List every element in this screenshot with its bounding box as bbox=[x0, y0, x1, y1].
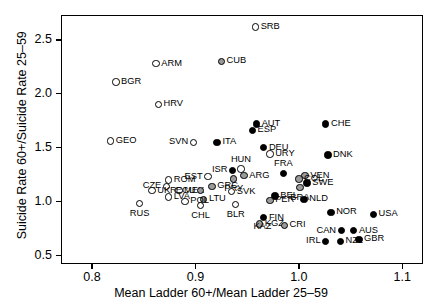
data-point-label: ISR bbox=[212, 166, 228, 175]
x-axis-tick-mark bbox=[91, 264, 93, 269]
data-point-marker[interactable] bbox=[155, 101, 162, 108]
x-axis-tick-label: 0.9 bbox=[175, 271, 215, 284]
data-point-label: BLR bbox=[227, 210, 245, 219]
data-point-label: CRI bbox=[290, 221, 306, 230]
x-axis-tick-label: 1.1 bbox=[382, 271, 422, 284]
data-point-marker[interactable] bbox=[295, 175, 302, 182]
data-point-label: ROM bbox=[174, 175, 196, 184]
data-point-marker[interactable] bbox=[190, 139, 197, 146]
data-point-marker[interactable] bbox=[303, 179, 310, 186]
y-axis-tick-mark bbox=[56, 201, 61, 203]
data-point-label: GBR bbox=[364, 235, 384, 244]
data-point-label: CHL bbox=[191, 211, 210, 220]
x-axis-tick-mark bbox=[298, 264, 300, 269]
data-point-label: SWE bbox=[312, 178, 333, 187]
data-point-marker[interactable] bbox=[112, 78, 119, 85]
data-point-marker[interactable] bbox=[152, 60, 159, 67]
y-axis-tick-mark bbox=[56, 39, 61, 41]
data-point-marker[interactable] bbox=[240, 172, 247, 179]
y-axis-title: Suicide Rate 60+/Suicide Rate 25–59 bbox=[16, 10, 29, 260]
x-axis-tick-label: 1.0 bbox=[279, 271, 319, 284]
x-axis-tick-label: 0.8 bbox=[72, 271, 112, 284]
data-point-label: SVK bbox=[237, 187, 256, 196]
data-point-label: RUS bbox=[130, 209, 150, 218]
data-point-label: GEO bbox=[116, 136, 137, 145]
y-axis-tick-mark bbox=[56, 147, 61, 149]
y-axis-tick-mark bbox=[56, 255, 61, 257]
data-point-label: ITA bbox=[222, 138, 236, 147]
data-point-marker[interactable] bbox=[355, 236, 362, 243]
data-point-label: CUB bbox=[227, 57, 247, 66]
data-point-marker[interactable] bbox=[327, 209, 334, 216]
x-axis-tick-mark bbox=[402, 264, 404, 269]
data-point-marker[interactable] bbox=[218, 58, 225, 65]
data-point-marker[interactable] bbox=[322, 120, 329, 127]
data-point-marker[interactable] bbox=[204, 173, 211, 180]
x-axis-tick-mark bbox=[195, 264, 197, 269]
data-point-marker[interactable] bbox=[266, 150, 273, 157]
data-point-label: ARM bbox=[161, 59, 182, 68]
data-point-label: CAN bbox=[316, 226, 336, 235]
data-point-marker[interactable] bbox=[249, 127, 256, 134]
data-point-marker[interactable] bbox=[165, 193, 172, 200]
data-point-label: NLD bbox=[309, 195, 328, 204]
data-point-label: USA bbox=[379, 210, 398, 219]
data-point-label: KAZ bbox=[253, 223, 271, 232]
data-point-label: ESP bbox=[258, 126, 277, 135]
data-point-marker[interactable] bbox=[252, 23, 259, 30]
data-point-marker[interactable] bbox=[300, 196, 307, 203]
data-point-label: IRL bbox=[306, 237, 320, 246]
data-point-label: FRA bbox=[274, 159, 293, 168]
data-point-marker[interactable] bbox=[370, 211, 377, 218]
data-point-marker[interactable] bbox=[281, 222, 288, 229]
data-point-marker[interactable] bbox=[266, 197, 273, 204]
data-point-marker[interactable] bbox=[324, 151, 331, 158]
data-point-label: CHE bbox=[331, 119, 351, 128]
data-point-marker[interactable] bbox=[208, 183, 215, 190]
data-point-marker[interactable] bbox=[148, 187, 155, 194]
data-point-label: SRB bbox=[261, 22, 280, 31]
x-axis-title: Mean Ladder 60+/Mean Ladder 25–59 bbox=[0, 287, 442, 300]
data-point-marker[interactable] bbox=[213, 139, 220, 146]
data-point-label: ARG bbox=[249, 171, 269, 180]
data-point-label: HRV bbox=[163, 100, 182, 109]
data-point-label: LTU bbox=[209, 195, 226, 204]
data-point-marker[interactable] bbox=[181, 198, 188, 205]
y-axis-tick-mark bbox=[56, 93, 61, 95]
data-point-marker[interactable] bbox=[337, 238, 344, 245]
data-point-label: PER bbox=[275, 196, 294, 205]
data-point-label: BGR bbox=[121, 77, 141, 86]
data-point-label: NOR bbox=[336, 208, 357, 217]
data-point-label: DNK bbox=[333, 150, 353, 159]
scatter-plot-figure: 0.51.01.52.02.50.80.91.01.1 SRBARMCUBBGR… bbox=[0, 0, 442, 303]
data-point-label: SVN bbox=[169, 138, 188, 147]
data-point-label: HUN bbox=[231, 155, 251, 164]
